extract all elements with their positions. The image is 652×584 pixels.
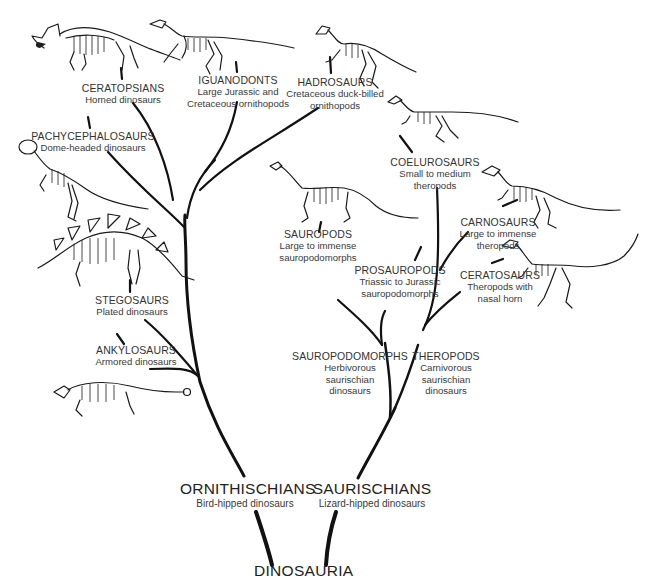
clade-name: THEROPODS: [406, 350, 486, 362]
label-hadrosaurs: HADROSAURS Cretaceous duck-billed ornith…: [270, 76, 400, 111]
clade-description: Cretaceous duck-billed: [270, 88, 400, 99]
branch-iguanodonts-tick: [236, 62, 237, 72]
label-sauropods: SAUROPODS Large to immense sauropodomorp…: [268, 228, 368, 263]
clade-description: ornithopods: [270, 100, 400, 111]
clade-description: saurischian: [290, 374, 410, 385]
branch-ornithischian-trunk: [185, 215, 244, 476]
clade-description: theropods: [448, 240, 548, 251]
clade-description: dinosaurs: [406, 385, 486, 396]
clade-name: PACHYCEPHALOSAURS: [28, 130, 158, 142]
root-label-dinosauria: DINOSAURIA: [254, 562, 353, 580]
clade-description: Dome-headed dinosaurs: [28, 142, 158, 153]
branch-ceratosaurs-tick: [492, 259, 503, 263]
clade-description: Carnivorous: [406, 362, 486, 373]
clade-name: STEGOSAURS: [82, 294, 182, 306]
clade-description: Small to medium: [380, 168, 490, 179]
label-carnosaurs: CARNOSAURS Large to immense theropods: [448, 216, 548, 251]
clade-description: nasal horn: [450, 293, 550, 304]
clade-name: SAUROPODS: [268, 228, 368, 240]
branch-coelurosaurs-tick: [400, 136, 412, 152]
clade-name: HADROSAURS: [270, 76, 400, 88]
clade-description: Plated dinosaurs: [82, 306, 182, 317]
branch-sauropods: [338, 300, 382, 345]
branch-hadrosaurs-tick: [330, 57, 331, 73]
branch-prosauropods: [381, 311, 385, 345]
clade-description: dinosaurs: [290, 385, 410, 396]
clade-description: sauropodomorphs: [344, 288, 456, 299]
clade-name: COELUROSAURS: [380, 156, 490, 168]
clade-name: ANKYLOSAURS: [80, 344, 192, 356]
label-ornithischians: ORNITHISCHIANS Bird-hipped dinosaurs: [180, 480, 310, 510]
coelurosaur-skeleton-icon: [388, 96, 518, 142]
branch-ankylosaurs: [150, 369, 198, 376]
clade-description: Large to immense: [448, 228, 548, 239]
iguanodont-skeleton-icon: [150, 20, 294, 74]
clade-description: Theropods with: [450, 281, 550, 292]
clade-description: Triassic to Jurassic: [344, 276, 456, 287]
clade-name: SAUROPODOMORPHS: [290, 350, 410, 362]
branch-ornithischians-stem: [256, 512, 272, 565]
clade-name: ORNITHISCHIANS: [180, 480, 310, 498]
branch-pachycephalosaurs-tick: [88, 117, 90, 128]
clade-name: PROSAUROPODS: [344, 264, 456, 276]
clade-name: CERATOSAURS: [450, 269, 550, 281]
clade-description: saurischian: [406, 374, 486, 385]
label-saurischians: SAURISCHIANS Lizard-hipped dinosaurs: [312, 480, 432, 510]
clade-description: Bird-hipped dinosaurs: [180, 498, 310, 510]
clade-description: theropods: [380, 180, 490, 191]
clade-description: Large to immense: [268, 240, 368, 251]
label-pachycephalosaurs: PACHYCEPHALOSAURS Dome-headed dinosaurs: [28, 130, 158, 154]
branch-carnosaurs-tick: [503, 200, 517, 206]
clade-description: Armored dinosaurs: [80, 356, 192, 367]
label-coelurosaurs: COELUROSAURS Small to medium theropods: [380, 156, 490, 191]
label-theropods: THEROPODS Carnivorous saurischian dinosa…: [406, 350, 486, 396]
stegosaur-skeleton-icon: [38, 214, 194, 286]
label-stegosaurs: STEGOSAURS Plated dinosaurs: [82, 294, 182, 318]
label-sauropodomorphs: SAUROPODOMORPHS Herbivorous saurischian …: [290, 350, 410, 396]
branch-prosauropods-tick: [415, 247, 421, 260]
clade-description: sauropodomorphs: [268, 252, 368, 263]
label-prosauropods: PROSAUROPODS Triassic to Jurassic saurop…: [344, 264, 456, 299]
branch-coelurosaurs: [423, 188, 438, 330]
label-ankylosaurs: ANKYLOSAURS Armored dinosaurs: [80, 344, 192, 368]
clade-name: SAURISCHIANS: [312, 480, 432, 498]
ankylosaur-skeleton-icon: [54, 383, 191, 416]
branch-hadrosaurs: [200, 108, 318, 190]
clade-description: Lizard-hipped dinosaurs: [312, 498, 432, 510]
clade-name: CARNOSAURS: [448, 216, 548, 228]
branch-saurischians-stem: [326, 512, 336, 565]
clade-description: Herbivorous: [290, 362, 410, 373]
label-ceratosaurs: CERATOSAURS Theropods with nasal horn: [450, 269, 550, 304]
branch-ankylosaurs-tick: [117, 334, 124, 344]
branch-iguanodonts: [205, 102, 237, 172]
ceratopsian-skeleton-icon: [32, 24, 180, 70]
